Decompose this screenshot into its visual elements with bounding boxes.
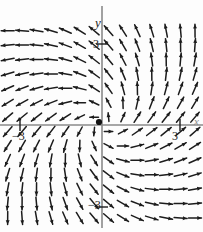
field-arrow-head bbox=[20, 220, 24, 224]
field-arrow-head bbox=[124, 144, 128, 148]
field-arrow-head bbox=[135, 53, 139, 58]
field-arrow-head bbox=[79, 176, 83, 181]
field-arrow-head bbox=[74, 101, 78, 105]
field-arrow-head bbox=[149, 24, 153, 29]
field-arrow-head bbox=[64, 205, 68, 210]
tick-label-x-negative: −3 bbox=[12, 130, 25, 142]
field-arrow-head bbox=[59, 86, 63, 90]
field-arrow-head bbox=[109, 130, 113, 134]
vector-field-canvas bbox=[0, 0, 203, 232]
field-arrow-head bbox=[153, 217, 158, 221]
direction-field-figure: y x 3 −3 −3 3 bbox=[0, 0, 203, 232]
field-arrow-head bbox=[151, 97, 155, 102]
field-arrow-head bbox=[16, 29, 20, 33]
equilibrium-point-dot bbox=[96, 119, 102, 125]
field-arrow-head bbox=[44, 72, 48, 76]
field-arrow-head bbox=[5, 176, 9, 181]
field-arrow-head bbox=[154, 173, 158, 177]
field-arrow-head bbox=[193, 39, 197, 43]
field-arrow-head bbox=[182, 158, 187, 162]
y-axis-label: y bbox=[95, 16, 101, 29]
field-arrow-head bbox=[150, 67, 154, 71]
field-arrow-head bbox=[179, 39, 183, 43]
field-arrow-head bbox=[183, 202, 187, 206]
tick-label-y-positive: 3 bbox=[93, 38, 99, 50]
field-arrow-head bbox=[197, 216, 201, 220]
field-arrow-head bbox=[164, 53, 168, 57]
field-arrow-head bbox=[59, 42, 64, 46]
field-arrow-head bbox=[140, 158, 144, 162]
field-arrow-head bbox=[78, 147, 82, 151]
tick-label-x-positive: 3 bbox=[172, 130, 178, 142]
x-axis-label: x bbox=[194, 116, 199, 127]
field-arrow-head bbox=[197, 201, 201, 205]
field-arrow-head bbox=[16, 87, 21, 91]
field-arrow-head bbox=[139, 203, 144, 207]
field-arrow-head bbox=[183, 216, 187, 220]
axes-group bbox=[0, 6, 203, 228]
field-arrow-head bbox=[121, 97, 125, 101]
field-arrow-head bbox=[30, 58, 34, 62]
field-arrow-head bbox=[135, 82, 139, 86]
field-arrow-head bbox=[180, 82, 184, 87]
field-arrow-head bbox=[6, 220, 10, 224]
field-arrow-head bbox=[197, 172, 202, 176]
field-arrow-head bbox=[49, 177, 53, 181]
field-arrow-head bbox=[1, 43, 5, 47]
field-arrow-head bbox=[35, 191, 39, 195]
field-arrow-head bbox=[90, 115, 94, 119]
field-arrow-head bbox=[168, 187, 172, 191]
tick-label-y-negative: −3 bbox=[88, 199, 101, 211]
field-arrow-head bbox=[16, 43, 20, 47]
field-arrow-head bbox=[20, 206, 24, 210]
field-arrow-head bbox=[1, 29, 5, 33]
field-arrow-head bbox=[193, 24, 197, 28]
field-arrow-head bbox=[63, 163, 67, 167]
field-arrow-head bbox=[34, 162, 38, 167]
